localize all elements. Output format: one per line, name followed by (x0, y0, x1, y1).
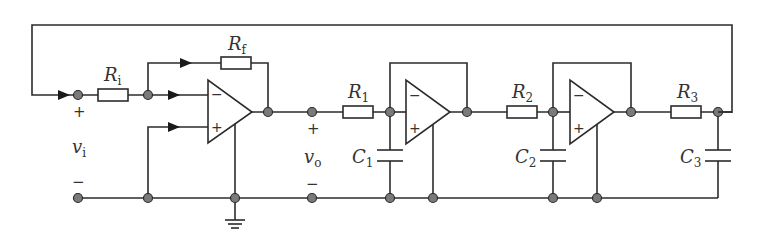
wire-noninv-input (148, 127, 208, 198)
noninv-input-arrow (168, 122, 180, 132)
label-r3: R3 (676, 81, 698, 105)
resistor-ri (98, 89, 128, 101)
vo-minus-sign: − (306, 175, 319, 193)
resistor-r3 (671, 106, 701, 118)
label-r1: R1 (347, 81, 369, 105)
rf-arrow (180, 58, 192, 68)
resistor-r1 (343, 106, 373, 118)
circuit-diagram: − + − + − + (0, 0, 758, 240)
vo-plus-sign: + (307, 120, 320, 138)
label-vo: vo (304, 146, 321, 170)
label-c3: C3 (680, 146, 701, 170)
label-vi: vi (72, 136, 86, 160)
vi-minus-sign: − (72, 173, 85, 191)
vi-plus-sign: + (73, 103, 86, 121)
inv-input-arrow (168, 90, 180, 100)
label-c1: C1 (352, 146, 373, 170)
label-c2: C2 (515, 146, 536, 170)
label-ri: Ri (103, 64, 122, 88)
opamp-2-plus: + (409, 120, 421, 136)
resistor-rf (221, 57, 251, 69)
label-rf: Rf (227, 33, 248, 57)
junction-nodes (74, 91, 723, 203)
feedback-wire (32, 25, 732, 113)
resistor-r2 (507, 106, 537, 118)
opamp-1-minus: − (211, 86, 223, 102)
label-r2: R2 (511, 81, 533, 105)
opamp-3-plus: + (573, 120, 585, 136)
feedback-arrow (58, 90, 70, 100)
opamp-2-minus: − (409, 87, 421, 103)
opamp-1-plus: + (211, 119, 223, 135)
opamp-3-minus: − (573, 87, 585, 103)
